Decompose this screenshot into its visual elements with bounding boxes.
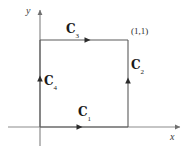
curve-label-c2: C2: [131, 59, 144, 74]
figure-container: y x (1,1) C1 C2 C3 C4: [0, 0, 193, 153]
x-axis-label: x: [170, 132, 174, 142]
y-axis-label: y: [26, 6, 30, 16]
script-c-glyph-c4: C: [44, 74, 54, 88]
curve-subscript-c1: 1: [88, 115, 92, 123]
direction-marker-c2: [125, 78, 131, 84]
script-c-glyph-c3: C: [66, 22, 76, 36]
curve-label-c1: C1: [78, 106, 91, 121]
direction-marker-c3: [85, 37, 91, 42]
curve-subscript-c2: 2: [141, 68, 145, 76]
curve-label-c3: C3: [66, 23, 79, 38]
direction-marker-c1: [77, 124, 83, 130]
direction-marker-c4: [37, 76, 43, 82]
curve-subscript-c3: 3: [76, 32, 80, 40]
corner-point-label: (1,1): [131, 27, 148, 36]
script-c-glyph-c2: C: [131, 58, 141, 72]
curve-subscript-c4: 4: [54, 84, 58, 92]
curve-label-c4: C4: [44, 75, 57, 90]
script-c-glyph-c1: C: [78, 105, 88, 119]
contour-diagram-svg: [0, 0, 193, 153]
